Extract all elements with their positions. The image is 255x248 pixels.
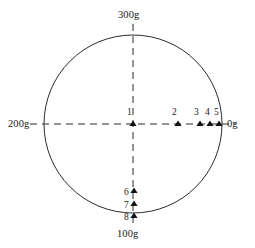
marker-group xyxy=(129,120,222,218)
marker-label-6: 6 xyxy=(124,188,129,198)
marker-triangle-2 xyxy=(174,120,181,126)
marker-triangle-4 xyxy=(206,120,213,126)
axis-label-right: 0g xyxy=(227,119,238,130)
figure-canvas xyxy=(0,0,255,248)
marker-label-4: 4 xyxy=(205,108,210,118)
marker-label-2: 2 xyxy=(172,108,177,118)
marker-label-7: 7 xyxy=(124,201,129,211)
marker-triangle-6 xyxy=(130,187,137,193)
marker-triangle-1 xyxy=(129,120,136,126)
marker-triangle-3 xyxy=(196,120,203,126)
axis-label-bottom: 100g xyxy=(117,229,138,240)
marker-label-5: 5 xyxy=(214,108,219,118)
marker-label-3: 3 xyxy=(194,108,199,118)
marker-label-8: 8 xyxy=(124,213,129,223)
marker-triangle-7 xyxy=(130,200,137,206)
azimuth-circle-figure: 300g 200g 0g 100g 12345678 xyxy=(0,0,255,248)
marker-label-1: 1 xyxy=(127,108,132,118)
axis-label-left: 200g xyxy=(8,119,29,130)
axis-label-top: 300g xyxy=(118,10,139,21)
